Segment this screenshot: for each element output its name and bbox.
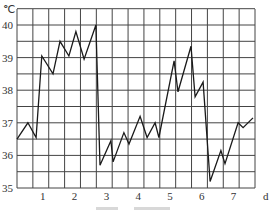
x-tick-label: 6 bbox=[199, 190, 205, 202]
y-axis-ticks: 353637383940 bbox=[2, 19, 14, 194]
x-tick-label: 2 bbox=[72, 190, 78, 202]
y-tick-label: 36 bbox=[2, 149, 14, 161]
x-axis-unit: d bbox=[263, 190, 269, 202]
y-tick-label: 39 bbox=[2, 52, 14, 64]
y-tick-label: 40 bbox=[2, 19, 14, 31]
x-tick-label: 3 bbox=[104, 190, 110, 202]
caption-cutoff bbox=[96, 207, 118, 210]
x-tick-label: 4 bbox=[135, 190, 141, 202]
y-tick-label: 35 bbox=[2, 182, 14, 194]
temperature-line-chart: 353637383940 1234567 ℃ d bbox=[0, 0, 273, 212]
temperature-series-line bbox=[17, 25, 253, 182]
y-axis-unit: ℃ bbox=[3, 3, 15, 15]
caption-cutoff bbox=[134, 207, 170, 210]
grid bbox=[17, 9, 255, 188]
x-tick-label: 1 bbox=[40, 190, 46, 202]
x-tick-label: 7 bbox=[231, 190, 237, 202]
x-axis-ticks: 1234567 bbox=[40, 190, 237, 202]
x-tick-label: 5 bbox=[167, 190, 173, 202]
y-tick-label: 37 bbox=[2, 117, 14, 129]
y-tick-label: 38 bbox=[2, 84, 14, 96]
